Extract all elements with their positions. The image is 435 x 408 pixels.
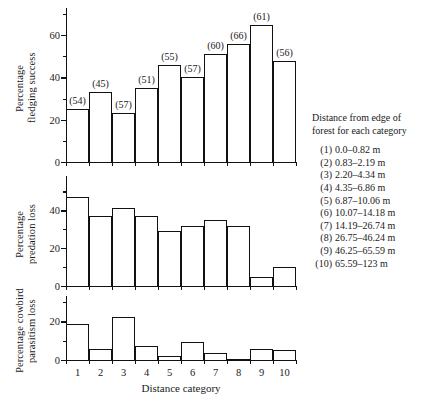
y-axis-title-line: fledging success [26, 18, 38, 158]
bar [112, 208, 135, 286]
x-axis-tick [66, 360, 67, 364]
legend-entry-range: 10.07–14.18 m [335, 207, 395, 220]
bar [112, 113, 135, 162]
y-axis-minor-tick [63, 191, 67, 192]
y-axis-tick-label: 0 [55, 281, 60, 292]
y-axis-tick-label: 0 [55, 355, 60, 366]
x-axis-tick [158, 286, 159, 290]
legend-entry-range: 46.25–65.59 m [335, 245, 395, 258]
x-axis-tick [66, 286, 67, 290]
x-axis-tick-label: 9 [259, 367, 264, 378]
bar [158, 231, 181, 286]
x-axis-tick [204, 360, 205, 364]
bar-sample-size-label: (60) [207, 40, 224, 51]
x-axis-tick-label: 8 [236, 367, 241, 378]
x-axis-tick [112, 162, 113, 166]
x-axis-tick-label: 2 [98, 367, 103, 378]
x-axis-tick [135, 162, 136, 166]
legend-entry-number: (6) [312, 207, 332, 220]
y-axis-tick-label: 0 [55, 157, 60, 168]
x-axis-tick [135, 286, 136, 290]
x-axis-tick [158, 360, 159, 364]
bar [181, 77, 204, 162]
x-axis-tick [296, 360, 297, 364]
legend-entry: (10)65.59–123 m [312, 258, 407, 271]
legend-entry: (3)2.20–4.34 m [312, 169, 407, 182]
x-axis-tick [181, 360, 182, 364]
y-axis-minor-tick [63, 302, 67, 303]
y-axis-major-tick [61, 35, 66, 36]
y-axis-title-panel-1: Percentage fledging success [14, 18, 38, 158]
legend-entry: (5)6.87–10.06 m [312, 195, 407, 208]
x-axis-tick [204, 162, 205, 166]
x-axis-tick-label: 3 [121, 367, 126, 378]
legend-entry-number: (3) [312, 169, 332, 182]
legend-entry-number: (8) [312, 232, 332, 245]
y-axis-tick-label: 60 [50, 30, 61, 41]
panel-cowbird-parasitism-loss: 02012345678910 [66, 302, 296, 360]
x-axis-tick [112, 360, 113, 364]
x-axis-tick [227, 360, 228, 364]
bar [181, 342, 204, 360]
bar [250, 277, 273, 286]
bar [112, 317, 135, 361]
x-axis-tick [89, 286, 90, 290]
x-axis-tick [112, 286, 113, 290]
bar-sample-size-label: (57) [115, 99, 132, 110]
bar [204, 353, 227, 360]
x-axis-title: Distance category [141, 382, 220, 394]
legend-entry-range: 14.19–26.74 m [335, 220, 395, 233]
bar [204, 54, 227, 162]
legend-entry-number: (10) [312, 258, 332, 271]
x-axis-tick [135, 360, 136, 364]
x-axis-tick [250, 286, 251, 290]
bar-sample-size-label: (66) [230, 30, 247, 41]
legend-entry: (9)46.25–65.59 m [312, 245, 407, 258]
legend-entry: (2)0.83–2.19 m [312, 157, 407, 170]
legend-entry: (1)0.0–0.82 m [312, 144, 407, 157]
legend-entry-number: (7) [312, 220, 332, 233]
legend-entry: (7)14.19–26.74 m [312, 220, 407, 233]
bar [250, 25, 273, 162]
y-axis-minor-tick [63, 99, 67, 100]
legend-heading-line-2: forest for each category [312, 125, 407, 138]
bar [135, 88, 158, 162]
y-axis-tick-label: 20 [50, 243, 61, 254]
legend-entry: (6)10.07–14.18 m [312, 207, 407, 220]
legend-entry-number: (5) [312, 195, 332, 208]
bar-sample-size-label: (56) [276, 47, 293, 58]
bar-sample-size-label: (55) [161, 51, 178, 62]
x-axis-tick-label: 1 [75, 367, 80, 378]
x-axis-tick [227, 286, 228, 290]
bar [181, 226, 204, 287]
bar-sample-size-label: (45) [92, 78, 109, 89]
bar-sample-size-label: (54) [69, 95, 86, 106]
legend-entry-number: (2) [312, 157, 332, 170]
x-axis-tick [89, 162, 90, 166]
legend-entry-number: (1) [312, 144, 332, 157]
panel-fledging-success: 0204060(54)(45)(57)(51)(55)(57)(60)(66)(… [66, 14, 296, 162]
bar [158, 65, 181, 162]
y-axis-title-line: Percentage [14, 180, 26, 288]
y-axis-tick-label: 40 [50, 205, 61, 216]
bar [89, 349, 112, 360]
y-axis-title-line: Percentage cowbird [14, 288, 26, 374]
y-axis-title-line: parasitism loss [26, 288, 38, 374]
bar-sample-size-label: (51) [138, 74, 155, 85]
legend-entry-number: (9) [312, 245, 332, 258]
bar-sample-size-label: (57) [184, 63, 201, 74]
figure-root: Percentage fledging success Percentage p… [0, 0, 435, 408]
bar [66, 324, 89, 360]
x-axis-tick-label: 6 [190, 367, 195, 378]
legend-entry-range: 26.75–46.24 m [335, 232, 395, 245]
legend-entry: (4)4.35–6.86 m [312, 182, 407, 195]
y-axis-tick-label: 20 [50, 114, 61, 125]
bar [204, 220, 227, 286]
legend-entry-range: 0.0–0.82 m [335, 144, 380, 157]
x-axis-tick [181, 162, 182, 166]
x-axis-tick [250, 360, 251, 364]
x-axis-tick [204, 286, 205, 290]
y-axis-major-tick [61, 321, 66, 322]
legend-entry-number: (4) [312, 182, 332, 195]
bar [89, 92, 112, 162]
